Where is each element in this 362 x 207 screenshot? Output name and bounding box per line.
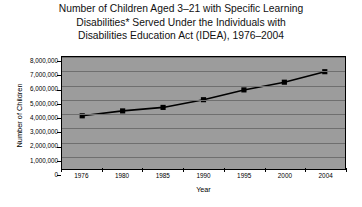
y-tick-label: 5,000,000 bbox=[18, 101, 58, 107]
x-tick-mark bbox=[142, 168, 143, 172]
x-tick-label: 1990 bbox=[196, 172, 210, 180]
x-tick-mark bbox=[224, 168, 225, 172]
chart-figure: Number of Children Aged 3–21 with Specif… bbox=[0, 0, 362, 207]
gridline bbox=[62, 157, 345, 158]
x-tick-mark bbox=[346, 168, 347, 172]
x-tick-label: 1976 bbox=[74, 172, 88, 180]
plot-area bbox=[61, 56, 346, 170]
chart-title: Number of Children Aged 3–21 with Specif… bbox=[0, 2, 362, 43]
chart-area: Number of Children 8,000,0007,000,0006,0… bbox=[0, 45, 362, 207]
y-tick-label: 7,000,000 bbox=[18, 72, 58, 78]
x-tick-mark bbox=[61, 168, 62, 172]
x-tick-mark bbox=[305, 168, 306, 172]
gridline bbox=[62, 100, 345, 101]
x-tick-label: 2000 bbox=[278, 172, 292, 180]
gridline bbox=[62, 114, 345, 115]
x-tick-label: 1995 bbox=[237, 172, 251, 180]
gridline bbox=[62, 86, 345, 87]
data-point-marker bbox=[241, 87, 246, 92]
y-tick-label: 3,000,000 bbox=[18, 129, 58, 135]
y-tick-label: 0 bbox=[18, 172, 58, 178]
x-tick-mark bbox=[183, 168, 184, 172]
chart-title-line-1: Number of Children Aged 3–21 with Specif… bbox=[0, 2, 362, 16]
gridline bbox=[62, 143, 345, 144]
data-series-line bbox=[62, 57, 345, 169]
x-tick-label: 1985 bbox=[156, 172, 170, 180]
x-tick-mark bbox=[265, 168, 266, 172]
series-polyline bbox=[82, 72, 325, 116]
x-axis-ticks: 1976198019851990199520002004 bbox=[61, 172, 346, 184]
data-point-marker bbox=[282, 80, 287, 85]
chart-title-line-2: Disabilities* Served Under the Individua… bbox=[0, 16, 362, 30]
x-tick-label: 2004 bbox=[319, 172, 333, 180]
gridline bbox=[62, 71, 345, 72]
data-point-marker bbox=[160, 105, 165, 110]
y-tick-label: 8,000,000 bbox=[18, 58, 58, 64]
x-tick-label: 1980 bbox=[115, 172, 129, 180]
y-tick-label: 1,000,000 bbox=[18, 158, 58, 164]
y-tick-label: 4,000,000 bbox=[18, 115, 58, 121]
y-tick-label: 2,000,000 bbox=[18, 143, 58, 149]
x-axis-label: Year bbox=[61, 185, 346, 194]
y-tick-label: 6,000,000 bbox=[18, 86, 58, 92]
gridline bbox=[62, 128, 345, 129]
data-point-marker bbox=[120, 108, 125, 113]
x-tick-mark bbox=[102, 168, 103, 172]
gridline bbox=[62, 57, 345, 58]
chart-title-line-3: Disabilities Education Act (IDEA), 1976–… bbox=[0, 29, 362, 43]
y-axis-ticks: 8,000,0007,000,0006,000,0005,000,0004,00… bbox=[18, 50, 58, 168]
